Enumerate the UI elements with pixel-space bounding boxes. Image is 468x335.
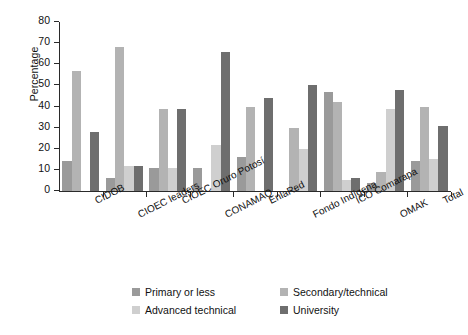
- legend-label: Secondary/technical: [293, 286, 388, 298]
- legend-item[interactable]: Advanced technical: [132, 304, 236, 316]
- bar: [429, 159, 438, 191]
- y-tick-label: 50: [38, 77, 50, 89]
- bar-chart: Percentage 01020304050607080 CIDOBCIOEC …: [0, 0, 468, 335]
- y-tick-label: 80: [38, 14, 50, 26]
- y-tick: 10: [54, 169, 59, 170]
- chart-legend: Primary or lessSecondary/technicalAdvanc…: [132, 286, 422, 326]
- legend-swatch-icon: [280, 288, 288, 296]
- bar: [72, 71, 81, 191]
- y-tick: 60: [54, 63, 59, 64]
- bar: [246, 107, 255, 192]
- bar: [177, 109, 186, 191]
- y-tick: 70: [54, 42, 59, 43]
- y-tick: 30: [54, 127, 59, 128]
- y-tick: 40: [54, 106, 59, 107]
- y-tick: 50: [54, 84, 59, 85]
- y-axis-line: [59, 22, 60, 192]
- bar: [124, 166, 133, 191]
- y-tick-label: 60: [38, 56, 50, 68]
- y-tick: 0: [54, 190, 59, 191]
- bar-group: [62, 22, 99, 191]
- bar: [159, 109, 168, 191]
- bar-group: [106, 22, 143, 191]
- y-tick: 20: [54, 148, 59, 149]
- bar-group: [367, 22, 404, 191]
- bar: [90, 132, 99, 191]
- y-tick-label: 0: [44, 183, 50, 195]
- bar: [62, 161, 71, 191]
- bar-group: [280, 22, 317, 191]
- legend-item[interactable]: University: [280, 304, 339, 316]
- y-tick-label: 70: [38, 35, 50, 47]
- bar: [420, 107, 429, 192]
- bar-group: [193, 22, 230, 191]
- bar-group: [149, 22, 186, 191]
- legend-swatch-icon: [132, 288, 140, 296]
- y-tick-label: 20: [38, 141, 50, 153]
- y-tick: 80: [54, 21, 59, 22]
- bar-group: [324, 22, 361, 191]
- bar-group: [411, 22, 448, 191]
- bar: [168, 168, 177, 191]
- y-tick-label: 10: [38, 162, 50, 174]
- bar: [149, 168, 158, 191]
- x-axis-label: CONAMAQ: [223, 187, 274, 220]
- legend-swatch-icon: [132, 306, 140, 314]
- legend-label: Primary or less: [145, 286, 215, 298]
- bar: [264, 98, 273, 191]
- y-tick-label: 40: [38, 99, 50, 111]
- legend-label: University: [293, 304, 339, 316]
- x-axis-label: OMAK: [398, 197, 429, 220]
- legend-swatch-icon: [280, 306, 288, 314]
- legend-item[interactable]: Primary or less: [132, 286, 215, 298]
- bar: [134, 166, 143, 191]
- bar: [324, 92, 333, 191]
- legend-label: Advanced technical: [145, 304, 236, 316]
- bar: [333, 102, 342, 191]
- x-axis-labels: CIDOBCIOEC leadersCIOEC Oruro PotosíCONA…: [59, 192, 451, 267]
- bar: [115, 47, 124, 191]
- bar: [308, 85, 317, 191]
- legend-item[interactable]: Secondary/technical: [280, 286, 388, 298]
- bar: [438, 126, 447, 191]
- y-tick-label: 30: [38, 120, 50, 132]
